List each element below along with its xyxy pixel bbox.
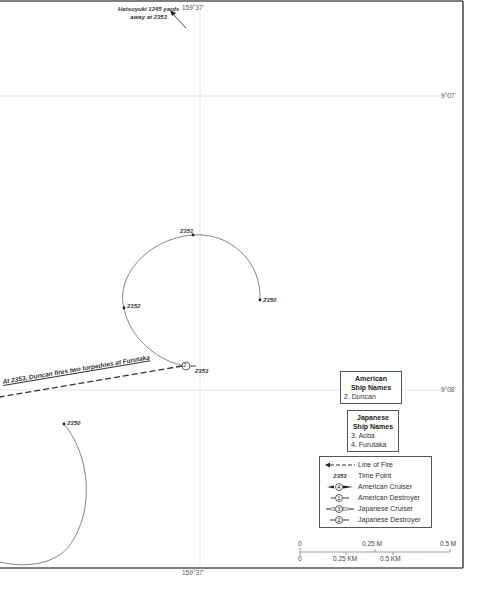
time-point-dot bbox=[259, 299, 262, 302]
time-point-icon: 2353 bbox=[322, 473, 358, 479]
line-of-fire bbox=[0, 366, 182, 397]
box-title: Ship Names bbox=[344, 383, 398, 392]
battle-map: Hatsuyuki 1245 yards away at 2353 159°37… bbox=[0, 0, 490, 613]
legend-item-line-of-fire: Line of Fire bbox=[322, 459, 429, 470]
legend-label: Time Point bbox=[358, 472, 391, 479]
annotation-line-1: Hatsuyuki 1245 yards bbox=[118, 5, 179, 13]
ship-name: 2. Duncan bbox=[344, 392, 398, 401]
american-destroyer-icon: 1 bbox=[322, 494, 358, 502]
box-title: Japanese bbox=[351, 413, 395, 422]
time-point-dot bbox=[63, 423, 66, 426]
time-point-label: 2352 bbox=[127, 303, 140, 309]
time-point-dot bbox=[123, 307, 126, 310]
svg-text:4: 4 bbox=[338, 484, 341, 490]
scale-miles-05: 0.5 M bbox=[440, 540, 456, 547]
legend-item-time-point: 2353 Time Point bbox=[322, 470, 429, 481]
hatsuyuki-annotation: Hatsuyuki 1245 yards away at 2353 bbox=[118, 5, 179, 21]
ship-name: 3. Aoba bbox=[351, 431, 395, 440]
legend-box: Line of Fire 2353 Time Point 4 American … bbox=[319, 456, 432, 528]
svg-text:3: 3 bbox=[338, 506, 341, 512]
meridian-label-top: 159°37' bbox=[182, 4, 204, 11]
legend-label: American Cruiser bbox=[358, 483, 412, 490]
legend-item-japanese-cruiser: 3 Japanese Cruiser bbox=[322, 503, 429, 514]
japanese-destroyer-icon: 2 bbox=[322, 516, 358, 524]
american-ship-names-box: American Ship Names 2. Duncan bbox=[340, 371, 402, 404]
parallel-label-upper: 9°07' bbox=[441, 92, 456, 99]
time-point-dot bbox=[192, 234, 195, 237]
svg-text:1: 1 bbox=[338, 495, 341, 501]
legend-item-japanese-destroyer: 2 Japanese Destroyer bbox=[322, 514, 429, 525]
scale-km-05: 0.5 KM bbox=[380, 555, 401, 562]
legend-item-american-destroyer: 1 American Destroyer bbox=[322, 492, 429, 503]
legend-item-american-cruiser: 4 American Cruiser bbox=[322, 481, 429, 492]
scale-miles-025: 0.25 M bbox=[362, 540, 382, 547]
legend-label: Japanese Destroyer bbox=[358, 516, 421, 523]
japanese-cruiser-icon: 3 bbox=[322, 505, 358, 513]
parallel-label-lower: 9°08' bbox=[441, 386, 456, 393]
time-point-label: 2350 bbox=[67, 420, 80, 426]
annotation-line-2: away at 2353 bbox=[118, 13, 179, 21]
box-title: American bbox=[344, 374, 398, 383]
time-point-label: 2350 bbox=[263, 297, 276, 303]
scale-km-0: 0 bbox=[298, 555, 302, 562]
scale-km-025: 0.25 KM bbox=[333, 555, 357, 562]
time-point-label: 2353 bbox=[195, 368, 208, 374]
american-cruiser-icon: 4 bbox=[322, 483, 358, 491]
meridian-label-bottom: 159°37' bbox=[182, 569, 204, 576]
legend-label: American Destroyer bbox=[358, 494, 420, 501]
scale-miles-0: 0 bbox=[298, 540, 302, 547]
ship-name: 4. Furutaka bbox=[351, 440, 395, 449]
box-title: Ship Names bbox=[351, 422, 395, 431]
legend-label: Japanese Cruiser bbox=[358, 505, 413, 512]
svg-text:2: 2 bbox=[338, 517, 341, 523]
time-point-label: 2351 bbox=[180, 228, 193, 234]
duncan-track bbox=[123, 235, 261, 366]
ship-number: 2 bbox=[183, 362, 186, 368]
japanese-ship-names-box: Japanese Ship Names 3. Aoba 4. Furutaka bbox=[347, 410, 399, 452]
legend-label: Line of Fire bbox=[358, 461, 393, 468]
furutaka-track bbox=[0, 424, 86, 565]
line-of-fire-icon bbox=[322, 462, 358, 468]
